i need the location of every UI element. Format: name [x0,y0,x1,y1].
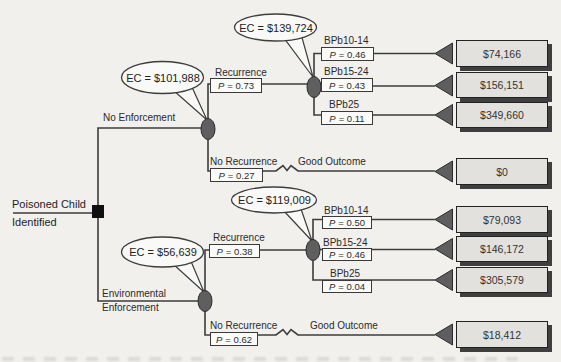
terminal-triangle-noenf-bpb10 [435,43,453,64]
environmental-label-line1: Environmental [102,288,166,299]
no-enforcement-label: No Enforcement [103,112,175,123]
p-symbol: P [329,113,335,124]
probability-box-env-norecurrence: P= 0.62 [210,332,258,346]
noenf-recurrence-label: Recurrence [215,67,267,78]
probability-box-noenf-bpb25: P= 0.11 [321,111,373,125]
p-value: = 0.62 [225,334,252,345]
p-symbol: P [329,249,335,260]
terminal-triangle-env-bpb10 [435,209,453,230]
p-symbol: P [218,80,224,91]
p-value: = 0.27 [228,170,255,181]
ec-value-noenf-recurrence: EC = $139,724 [235,14,317,41]
value-box-env-bpb15: $146,172 [456,236,548,262]
noenf-bpb10-label: BPb10-14 [324,35,368,46]
value-box-env-good-outcome: $18,412 [456,321,548,348]
terminal-triangle-env-good [435,324,453,345]
chance-node-no-enforcement [201,119,215,140]
branch-no-enforcement-line [98,128,202,205]
env-bpb10-label: BPb10-14 [324,205,368,216]
probability-box-noenf-recurrence: P= 0.73 [210,78,262,93]
probability-box-env-bpb10: P= 0.50 [322,216,372,229]
env-norecurrence-label: No Recurrence [210,320,277,331]
chance-node-noenf-recurrence [307,77,321,98]
env-bpb25-label: BPb25 [330,268,360,279]
p-value: = 0.50 [338,217,365,228]
probability-box-noenf-norecurrence: P= 0.27 [210,168,263,182]
p-symbol: P [329,49,335,60]
value-box-noenf-good-outcome: $0 [456,158,548,185]
noenf-bpb25-label: BPb25 [329,99,359,110]
p-value: = 0.46 [338,249,365,260]
terminal-triangle-noenf-bpb25 [435,105,453,126]
p-value: = 0.38 [226,246,253,257]
chance-node-env-recurrence [306,240,320,261]
terminal-triangle-env-bpb15 [435,239,453,260]
env-good-outcome-label: Good Outcome [310,320,378,331]
p-symbol: P [216,334,222,345]
noenf-good-outcome-label: Good Outcome [298,156,366,167]
probability-box-noenf-bpb15: P= 0.43 [321,78,373,92]
probability-box-env-bpb15: P= 0.46 [322,248,372,261]
p-value: = 0.46 [339,49,366,60]
cropped-caption-remnant [2,357,522,361]
value-box-env-bpb25: $305,579 [456,267,548,293]
p-value: = 0.04 [338,281,365,292]
environmental-label-line2: Enforcement [102,302,159,313]
ec-value-no-enforcement: EC = $101,988 [122,62,204,93]
p-value: = 0.73 [227,80,254,91]
value-box-noenf-bpb25: $349,660 [456,102,548,128]
value-box-noenf-bpb15: $156,151 [456,72,548,98]
p-value: = 0.43 [338,80,365,91]
probability-box-noenf-bpb10: P= 0.46 [321,47,374,61]
p-symbol: P [329,217,335,228]
p-value: = 0.11 [339,113,365,124]
value-box-env-bpb10: $79,093 [456,206,548,233]
ec-value-env-recurrence: EC = $119,009 [232,187,317,213]
p-symbol: P [329,80,335,91]
value-box-noenf-bpb10: $74,166 [456,40,548,67]
root-label-line1: Poisoned Child [12,198,86,210]
ec-value-environmental: EC = $56,639 [122,237,204,267]
p-symbol: P [216,246,222,257]
noenf-bpb15-label: BPb15-24 [324,66,368,77]
p-symbol: P [218,170,224,181]
terminal-triangle-noenf-bpb15 [435,75,453,96]
env-bpb15-label: BPb15-24 [323,237,367,248]
noenf-norecurrence-label: No Recurrence [210,156,277,167]
decision-tree-figure: Poisoned Child Identified No Enforcement… [0,0,561,362]
root-label-line2: Identified [12,216,57,228]
decision-node [92,205,104,218]
env-recurrence-label: Recurrence [213,232,265,243]
p-symbol: P [329,281,335,292]
terminal-triangle-env-bpb25 [435,270,453,291]
terminal-triangle-noenf-good [435,161,453,182]
probability-box-env-recurrence: P= 0.38 [209,244,260,258]
chance-node-environmental [198,291,212,312]
probability-box-env-bpb25: P= 0.04 [322,280,372,293]
